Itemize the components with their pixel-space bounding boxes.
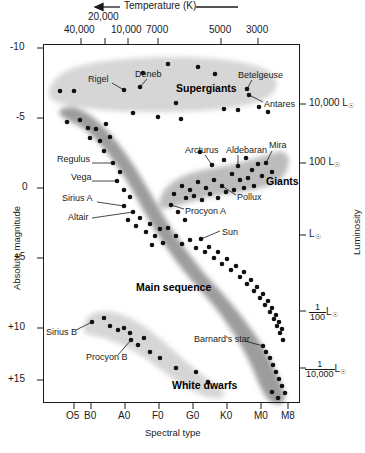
- star-point: [128, 331, 133, 336]
- star-point: [138, 85, 143, 90]
- star-point: [275, 324, 280, 329]
- bottom-axis-ticks: [74, 403, 288, 410]
- star-point: [118, 170, 123, 175]
- star-label-procyon-b: Procyon B: [86, 353, 128, 362]
- star-leader-line: [201, 231, 220, 239]
- star-point: [238, 178, 243, 183]
- star-point: [281, 338, 286, 343]
- star-point: [225, 257, 230, 262]
- star-point: [65, 120, 70, 125]
- star-point: [207, 245, 212, 250]
- star-point: [136, 343, 141, 348]
- top-tick-label-5000: 5000: [209, 25, 231, 35]
- star-point: [174, 366, 179, 371]
- star-point: [236, 108, 241, 113]
- star-point: [278, 331, 283, 336]
- star-point: [122, 88, 127, 93]
- star-point: [131, 111, 136, 116]
- star-point: [252, 184, 257, 189]
- star-point: [158, 227, 163, 232]
- top-tick-label-20000: 20,000: [88, 12, 119, 22]
- fraction-denominator: 100: [309, 313, 326, 322]
- star-point: [176, 210, 181, 215]
- region-bands: [49, 57, 289, 404]
- star-point: [208, 192, 213, 197]
- star-point: [90, 320, 95, 325]
- star-point: [196, 180, 201, 185]
- star-label-procyon-a: Procyon A: [185, 207, 226, 216]
- star-point: [122, 326, 127, 331]
- bottom-tick-label-O5: O5: [66, 411, 79, 421]
- top-tick-label-40000: 40,000: [64, 25, 95, 35]
- star-label-sun: Sun: [222, 228, 238, 237]
- star-point: [270, 306, 275, 311]
- star-point: [72, 89, 77, 94]
- star-point: [220, 184, 225, 189]
- bottom-tick-label-F0: F0: [152, 411, 164, 421]
- star-point: [134, 224, 139, 229]
- star-point: [212, 256, 217, 261]
- star-point: [247, 93, 252, 98]
- star-point: [194, 370, 199, 375]
- star-point: [180, 242, 185, 247]
- star-label-altair: Altair: [68, 213, 89, 222]
- right-tick-text-100L: 100 L: [309, 156, 334, 167]
- bottom-tick-label-B0: B0: [84, 411, 96, 421]
- star-point: [204, 186, 209, 191]
- star-point: [277, 377, 282, 382]
- right-tick-label-100L: 100 L☉: [309, 157, 340, 168]
- star-point: [229, 268, 234, 273]
- top-tick-label-7000: 7000: [146, 25, 168, 35]
- star-point: [78, 118, 83, 123]
- star-point: [88, 136, 93, 141]
- star-point: [264, 350, 269, 355]
- star-point: [122, 188, 127, 193]
- star-point: [192, 194, 197, 199]
- star-label-pollux: Pollux: [237, 193, 262, 202]
- sun-symbol-subscript: ☉: [315, 233, 321, 240]
- star-point: [255, 285, 260, 290]
- star-leader-line: [97, 202, 124, 206]
- star-point: [199, 237, 204, 242]
- top-axis-ticks: [81, 38, 258, 45]
- star-point: [200, 198, 205, 203]
- star-point: [183, 218, 188, 223]
- star-point: [188, 238, 193, 243]
- star-point: [184, 196, 189, 201]
- left-tick-label-plus15: +15: [8, 374, 25, 384]
- star-point: [148, 222, 153, 227]
- star-label-sirius-b: Sirius B: [46, 328, 77, 337]
- star-point: [172, 192, 177, 197]
- temperature-axis-title: Temperature (K): [124, 1, 196, 11]
- star-point: [271, 363, 276, 368]
- star-point: [213, 72, 218, 77]
- star-point: [238, 275, 243, 280]
- left-axis-ticks: [37, 48, 44, 380]
- star-point: [266, 299, 271, 304]
- star-point: [158, 356, 163, 361]
- star-point: [250, 168, 255, 173]
- star-label-antares: Antares: [264, 100, 295, 109]
- region-label-white-dwarfs: White dwarfs: [172, 380, 237, 391]
- left-tick-label-plus10: +10: [8, 322, 25, 332]
- star-point: [216, 196, 221, 201]
- star-point: [126, 218, 131, 223]
- star-point: [180, 184, 185, 189]
- star-point: [142, 336, 147, 341]
- star-point: [277, 320, 282, 325]
- star-point: [108, 324, 113, 329]
- star-point: [210, 163, 215, 168]
- star-point: [148, 350, 153, 355]
- sun-symbol-subscript: ☉: [340, 368, 346, 375]
- star-point: [268, 310, 273, 315]
- left-tick-label-0: 0: [22, 182, 28, 192]
- region-label-supergiants: Supergiants: [176, 83, 237, 94]
- right-tick-text-10000L: 10,000 L: [309, 97, 348, 108]
- star-point: [116, 328, 121, 333]
- star-point: [111, 161, 116, 166]
- star-point: [108, 135, 113, 140]
- star-point: [280, 384, 285, 389]
- star-point: [242, 186, 247, 191]
- region-label-main-sequence: Main sequence: [136, 282, 211, 293]
- star-point: [104, 122, 109, 127]
